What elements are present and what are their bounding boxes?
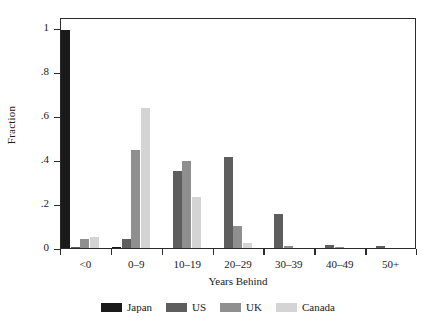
bar-canada-1 — [141, 108, 150, 248]
y-axis-tick: 1 — [0, 29, 60, 30]
bar-canada-0 — [90, 237, 99, 248]
plot-area — [60, 18, 416, 249]
bar-uk-4 — [284, 246, 293, 248]
legend-swatch-canada — [276, 303, 297, 312]
x-axis-category-label: 30–39 — [275, 258, 303, 270]
legend-label-uk: UK — [246, 301, 262, 313]
x-axis-category-label: 10–19 — [173, 258, 201, 270]
legend-label-canada: Canada — [302, 301, 335, 313]
x-axis-tick-mark — [213, 249, 214, 255]
y-axis-tick-label: .6 — [41, 109, 49, 121]
bar-us-3 — [224, 157, 233, 248]
y-axis-tick-label: 0 — [44, 241, 50, 253]
bar-uk-2 — [182, 161, 191, 248]
x-axis-tick-mark — [365, 249, 366, 255]
bar-japan-1 — [112, 247, 121, 248]
legend-entry-us[interactable]: US — [166, 301, 206, 313]
legend-entry-uk[interactable]: UK — [220, 301, 262, 313]
legend-swatch-japan — [101, 303, 122, 312]
x-axis-tick-mark — [314, 249, 315, 255]
bar-uk-5 — [335, 247, 344, 248]
bar-us-5 — [325, 245, 334, 248]
bar-uk-0 — [80, 239, 89, 248]
bar-us-6 — [376, 246, 385, 248]
legend-label-japan: Japan — [127, 301, 152, 313]
bar-us-4 — [274, 214, 283, 248]
y-axis-tick-label: 1 — [44, 21, 50, 33]
y-axis-title-text: Fraction — [5, 106, 17, 144]
bar-canada-2 — [192, 197, 201, 248]
y-axis-tick: .8 — [0, 73, 60, 74]
legend-entry-japan[interactable]: Japan — [101, 301, 152, 313]
bar-uk-1 — [131, 150, 140, 248]
legend-swatch-us — [166, 303, 187, 312]
y-axis-tick: .6 — [0, 117, 60, 118]
y-axis-tick: .4 — [0, 161, 60, 162]
bar-canada-3 — [243, 243, 252, 249]
y-axis-tick-label: .4 — [41, 153, 49, 165]
x-axis-category-label: 20–29 — [224, 258, 252, 270]
x-axis-category-label: 0–9 — [128, 258, 145, 270]
legend-label-us: US — [192, 301, 206, 313]
x-axis-tick-mark — [111, 249, 112, 255]
x-axis-tick-mark — [416, 249, 417, 255]
legend-entry-canada[interactable]: Canada — [276, 301, 335, 313]
y-axis-tick-label: .8 — [41, 65, 49, 77]
bar-chart-figure: Fraction 0.2.4.6.81 <00–910–1920–2930–39… — [0, 0, 436, 326]
y-axis-tick: 0 — [0, 249, 60, 250]
y-axis-tick-label: .2 — [41, 197, 49, 209]
bar-us-2 — [173, 171, 182, 248]
bar-us-1 — [122, 239, 131, 248]
y-axis-tick: .2 — [0, 205, 60, 206]
x-axis-title: Years Behind — [60, 275, 416, 287]
x-axis-tick-mark — [263, 249, 264, 255]
bar-us-0 — [71, 247, 80, 248]
x-axis-tick-mark — [60, 249, 61, 255]
chart-legend: JapanUSUKCanada — [0, 301, 436, 313]
legend-swatch-uk — [220, 303, 241, 312]
x-axis-category-label: <0 — [80, 258, 92, 270]
x-axis-category-label: 50+ — [382, 258, 399, 270]
x-axis-tick-mark — [162, 249, 163, 255]
bar-japan-0 — [61, 30, 70, 248]
x-axis-category-label: 40–49 — [326, 258, 354, 270]
bar-uk-3 — [233, 226, 242, 248]
y-axis-title: Fraction — [2, 0, 20, 250]
